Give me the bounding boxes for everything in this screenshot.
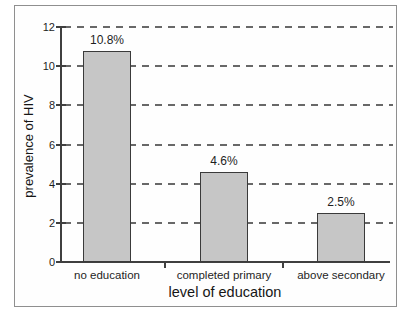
y-tick-label: 6 xyxy=(23,138,55,152)
y-tick-mark xyxy=(56,104,66,106)
bar xyxy=(200,172,248,262)
y-tick-label: 2 xyxy=(23,216,55,230)
x-category-label: completed primary xyxy=(159,268,289,282)
x-category-label: above secondary xyxy=(276,268,406,282)
bar-value-label: 4.6% xyxy=(189,154,259,168)
gridline xyxy=(64,26,393,28)
y-tick-mark xyxy=(56,222,66,224)
bar-value-label: 10.8% xyxy=(72,33,142,47)
y-tick-mark xyxy=(56,26,66,28)
y-tick-label: 10 xyxy=(23,59,55,73)
bar xyxy=(83,51,131,263)
chart-frame: prevalence of HIV 02468101210.8%no educa… xyxy=(14,5,397,307)
y-tick-label: 8 xyxy=(23,98,55,112)
y-tick-mark xyxy=(56,261,66,263)
bar xyxy=(317,213,365,262)
y-tick-mark xyxy=(56,183,66,185)
y-tick-label: 0 xyxy=(23,255,55,269)
x-category-label: no education xyxy=(42,268,172,282)
x-axis-title: level of education xyxy=(169,284,282,300)
y-tick-label: 4 xyxy=(23,177,55,191)
y-tick-mark xyxy=(56,65,66,67)
y-tick-label: 12 xyxy=(23,20,55,34)
y-tick-mark xyxy=(56,144,66,146)
figure-page: { "chart_data": { "type": "bar", "title"… xyxy=(0,0,410,319)
bar-value-label: 2.5% xyxy=(306,195,376,209)
